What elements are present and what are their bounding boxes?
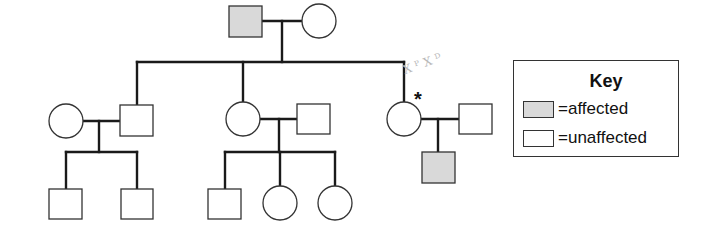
individual-III-4-female xyxy=(263,186,297,220)
individual-III-1-male xyxy=(49,189,82,219)
individual-III-2-male xyxy=(121,189,153,219)
individual-II-1-female xyxy=(49,104,83,138)
legend-key: Key =affected =unaffected xyxy=(513,60,679,157)
legend-title: Key xyxy=(514,71,678,92)
individual-I-1-affected-male xyxy=(229,6,262,37)
individual-III-3-male xyxy=(208,189,241,219)
individual-III-6-affected-male xyxy=(422,152,455,183)
legend-item-unaffected: =unaffected xyxy=(523,128,647,148)
unaffected-swatch-icon xyxy=(523,130,554,147)
individual-II-6-male xyxy=(459,104,492,134)
individual-III-5-female xyxy=(318,186,352,220)
legend-label-unaffected: =unaffected xyxy=(558,128,647,148)
legend-item-affected: =affected xyxy=(523,99,628,119)
individual-II-3-female xyxy=(226,102,260,136)
individual-I-2-female xyxy=(302,4,336,38)
individual-II-4-male xyxy=(297,104,330,134)
individual-II-2-male xyxy=(120,105,153,136)
legend-label-affected: =affected xyxy=(558,99,628,119)
asterisk-marker: * xyxy=(414,88,422,111)
affected-swatch-icon xyxy=(523,101,554,118)
